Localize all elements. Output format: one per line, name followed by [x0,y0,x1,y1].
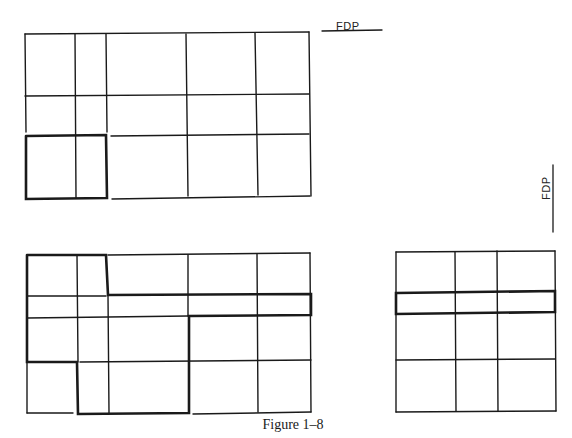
top-highlight [26,135,107,199]
fdp-side-label: FDP [540,177,552,201]
fdp-top-label: FDP [336,20,360,32]
bottom-left-grid [27,253,311,414]
bottom-right-grid [396,251,556,412]
bottom-right-highlight [396,291,555,314]
bottom-left-highlight [27,255,311,414]
figure-canvas [0,0,572,438]
figure-caption: Figure 1–8 [0,417,572,433]
top-grid [25,32,311,199]
